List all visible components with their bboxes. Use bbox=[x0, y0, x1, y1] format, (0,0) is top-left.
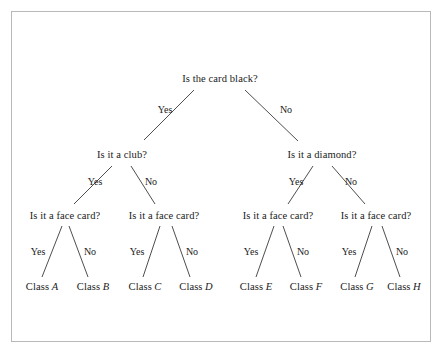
leaf-prefix: Class bbox=[240, 281, 263, 292]
edge-label-face1-yes: Yes bbox=[31, 247, 46, 257]
edge-label-face1-no: No bbox=[84, 247, 96, 257]
leaf-class-letter: F bbox=[313, 281, 322, 292]
leaf-class-a: ClassA bbox=[26, 282, 58, 293]
tree-edges bbox=[0, 0, 441, 353]
leaf-prefix: Class bbox=[179, 281, 202, 292]
leaf-prefix: Class bbox=[340, 281, 363, 292]
node-is-it-a-club: Is it a club? bbox=[97, 150, 147, 161]
decision-tree-figure: Is the card black? Is it a club? Is it a… bbox=[0, 0, 441, 353]
leaf-prefix: Class bbox=[387, 281, 410, 292]
leaf-class-letter: E bbox=[263, 281, 272, 292]
leaf-prefix: Class bbox=[129, 281, 152, 292]
node-face-card-4: Is it a face card? bbox=[341, 211, 412, 222]
leaf-prefix: Class bbox=[26, 281, 49, 292]
edge-label-diamond-yes: Yes bbox=[289, 177, 304, 187]
edge-label-face2-yes: Yes bbox=[130, 247, 145, 257]
leaf-prefix: Class bbox=[77, 281, 100, 292]
leaf-prefix: Class bbox=[290, 281, 313, 292]
tree-edge-face4-yes bbox=[355, 226, 372, 277]
edge-label-face4-no: No bbox=[396, 247, 408, 257]
leaf-class-e: ClassE bbox=[240, 282, 272, 293]
edge-label-face3-no: No bbox=[297, 247, 309, 257]
leaf-class-letter: G bbox=[364, 281, 374, 292]
leaf-class-letter: B bbox=[100, 281, 109, 292]
leaf-class-letter: H bbox=[411, 281, 421, 292]
leaf-class-letter: A bbox=[49, 281, 58, 292]
leaf-class-b: ClassB bbox=[77, 282, 109, 293]
leaf-class-d: ClassD bbox=[179, 282, 212, 293]
edge-label-root-no: No bbox=[280, 105, 292, 115]
edge-label-club-yes: Yes bbox=[88, 177, 103, 187]
leaf-class-letter: C bbox=[152, 281, 162, 292]
node-face-card-2: Is it a face card? bbox=[129, 211, 200, 222]
tree-edge-face2-yes bbox=[143, 226, 160, 277]
edge-label-face3-yes: Yes bbox=[244, 247, 259, 257]
leaf-class-h: ClassH bbox=[387, 282, 420, 293]
edge-label-diamond-no: No bbox=[345, 177, 357, 187]
edge-label-face4-yes: Yes bbox=[342, 247, 357, 257]
edge-label-root-yes: Yes bbox=[158, 105, 173, 115]
node-root: Is the card black? bbox=[182, 74, 258, 85]
node-face-card-3: Is it a face card? bbox=[243, 211, 314, 222]
tree-edge-root-no bbox=[245, 90, 298, 141]
node-is-it-a-diamond: Is it a diamond? bbox=[288, 150, 357, 161]
node-face-card-1: Is it a face card? bbox=[30, 211, 101, 222]
tree-edge-root-yes bbox=[144, 90, 194, 140]
edge-label-club-no: No bbox=[145, 177, 157, 187]
leaf-class-letter: D bbox=[203, 281, 213, 292]
leaf-class-g: ClassG bbox=[340, 282, 373, 293]
edge-label-face2-no: No bbox=[186, 247, 198, 257]
leaf-class-f: ClassF bbox=[290, 282, 322, 293]
leaf-class-c: ClassC bbox=[129, 282, 162, 293]
